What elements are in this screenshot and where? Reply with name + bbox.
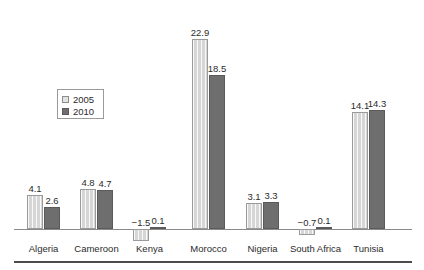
light-square-swatch-icon (62, 96, 69, 103)
bar-south-africa-2010 (316, 227, 332, 230)
value-label-nigeria-2010: 3.3 (257, 190, 285, 201)
value-label-algeria-2005: 4.1 (21, 183, 49, 194)
chart-legend: 2005 2010 (57, 89, 104, 119)
bar-kenya-2010 (150, 227, 166, 230)
bar-south-africa-2005 (299, 229, 315, 235)
legend-label-2010: 2010 (73, 106, 94, 117)
value-label-algeria-2010: 2.6 (38, 195, 66, 206)
value-label-cameroon-2010: 4.7 (91, 178, 119, 189)
value-label-morocco-2005: 22.9 (186, 27, 214, 38)
bar-cameroon-2005 (80, 189, 96, 229)
zero-baseline-axis (14, 229, 412, 230)
bar-algeria-2010 (44, 207, 60, 229)
plot-area: 4.12.64.84.7−1.50.122.918.53.13.3−0.70.1… (0, 0, 424, 270)
dark-square-swatch-icon (62, 108, 69, 115)
bottom-divider-rule (14, 261, 412, 263)
bar-nigeria-2010 (263, 202, 279, 229)
value-label-morocco-2010: 18.5 (203, 63, 231, 74)
value-label-south-africa-2010: 0.1 (310, 215, 338, 226)
bar-cameroon-2010 (97, 190, 113, 229)
category-label-tunisia: Tunisia (329, 243, 409, 255)
value-label-kenya-2010: 0.1 (144, 215, 172, 226)
bar-tunisia-2005 (352, 112, 368, 229)
legend-entry-2005: 2005 (62, 93, 103, 105)
bar-nigeria-2005 (246, 203, 262, 229)
legend-label-2005: 2005 (73, 94, 94, 105)
bar-kenya-2005 (133, 229, 149, 241)
legend-entry-2010: 2010 (62, 105, 103, 117)
bar-tunisia-2010 (369, 110, 385, 229)
bar-morocco-2010 (209, 75, 225, 229)
bar-chart-figure: 4.12.64.84.7−1.50.122.918.53.13.3−0.70.1… (0, 0, 424, 270)
value-label-tunisia-2010: 14.3 (363, 98, 391, 109)
